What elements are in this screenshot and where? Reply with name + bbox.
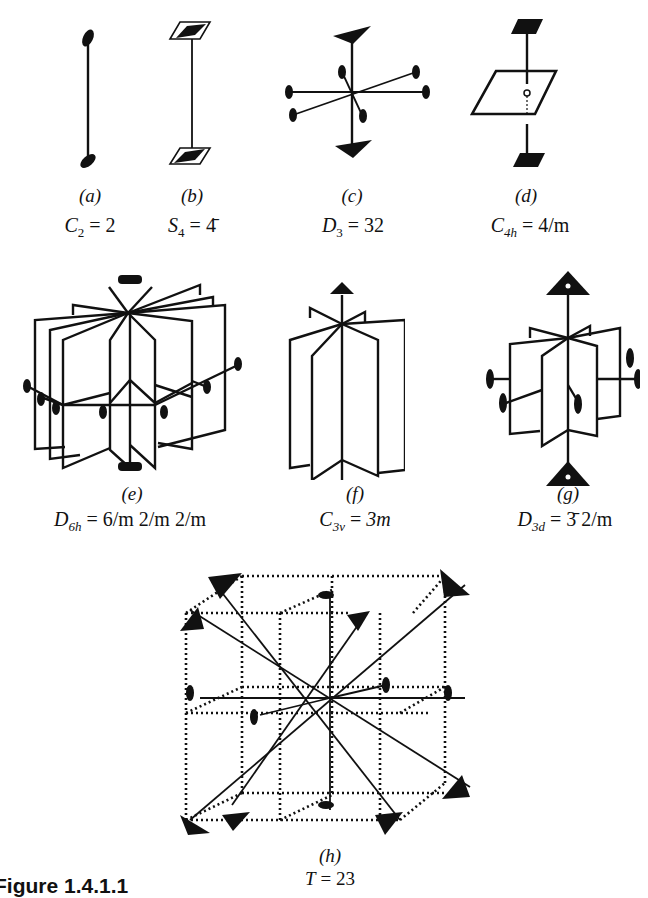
panel-c-diagram [280,20,440,160]
threefold-symbol-icon [347,611,370,631]
twofold-symbol-icon [338,65,346,79]
twofold-symbol-icon [626,348,634,368]
twofold-symbol-icon [574,394,582,414]
twofold-symbol-icon [23,379,31,393]
panel-a-diagram [60,10,120,170]
panel-a-letter: (a) [70,185,110,207]
panel-g-formula: D3d = 3̄ 2/m [490,508,640,535]
panel-b-diagram [165,10,225,170]
twofold-symbol-icon [359,109,367,123]
twofold-symbol-icon [318,591,334,599]
panel-g-diagram [480,268,640,488]
panel-f-letter: (f) [335,483,375,505]
fourfold-symbol-icon [513,153,545,167]
panel-b-formula: S4 = 4̄ [142,214,242,241]
threefold-symbol-icon [335,140,372,158]
twofold-symbol-icon [382,677,390,693]
panel-h-diagram [180,565,480,840]
threefold-symbol-icon [330,282,354,294]
panel-d-formula: C4h = 4/m [470,214,590,241]
threefold-symbol-icon [440,569,470,597]
twofold-symbol-icon [186,685,194,701]
twofold-symbol-icon [203,380,211,394]
rotoinversion-threefold-icon [546,271,590,295]
panel-e-letter: (e) [112,483,152,505]
panel-f-diagram [285,280,405,480]
twofold-symbol-icon [634,369,640,389]
twofold-symbol-icon [318,801,334,809]
panel-h-letter: (h) [310,845,350,867]
twofold-symbol-icon [37,392,45,406]
sixfold-symbol-icon [118,275,142,284]
twofold-symbol-icon [160,405,168,419]
panel-g-letter: (g) [548,483,588,505]
fourfold-symbol-icon [511,19,543,34]
panel-d-letter: (d) [506,185,546,207]
panel-a-formula: C2 = 2 [40,214,140,241]
panel-e-formula: D6h = 6/m 2/m 2/m [30,508,230,535]
threefold-symbol-icon [222,812,250,831]
mirror-plane-icon [472,71,556,114]
twofold-symbol-icon [422,85,430,99]
twofold-symbol-icon [499,393,507,413]
twofold-symbol-icon [99,405,107,419]
panel-f-formula: C3v = 3m [300,508,410,535]
sixfold-symbol-icon [118,462,142,471]
twofold-symbol-icon [412,65,420,79]
threefold-symbol-icon [375,812,403,835]
threefold-symbol-icon [333,26,371,44]
twofold-symbol-icon [486,369,494,389]
figure-caption-title: Figure 1.4.1.1 [0,874,128,898]
panel-e-diagram [10,275,250,475]
twofold-symbol-icon [80,28,97,49]
panel-h-formula: T = 23 [280,868,380,890]
panel-b-letter: (b) [172,185,212,207]
twofold-symbol-icon [289,108,297,122]
twofold-symbol-icon [250,709,258,725]
twofold-symbol-icon [234,357,242,371]
twofold-symbol-icon [285,85,293,99]
panel-d-diagram [470,12,590,172]
twofold-symbol-icon [52,401,60,415]
threefold-symbol-icon [180,815,210,835]
twofold-symbol-icon [444,685,452,701]
panel-c-formula: D3 = 32 [298,214,408,241]
panel-c-letter: (c) [332,185,372,207]
